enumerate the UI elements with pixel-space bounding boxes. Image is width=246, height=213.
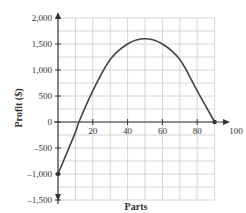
x-axis-label: Parts xyxy=(125,201,148,212)
svg-text:40: 40 xyxy=(123,126,133,136)
svg-text:100: 100 xyxy=(229,126,243,136)
svg-text:500: 500 xyxy=(39,91,53,101)
svg-text:1,500: 1,500 xyxy=(32,39,53,49)
grid xyxy=(58,18,215,200)
svg-text:1,000: 1,000 xyxy=(32,65,53,75)
svg-text:2,000: 2,000 xyxy=(32,13,53,23)
svg-text:0: 0 xyxy=(48,117,53,127)
axes xyxy=(54,12,230,204)
svg-text:60: 60 xyxy=(158,126,168,136)
svg-text:80: 80 xyxy=(193,126,203,136)
svg-text:–1,000: –1,000 xyxy=(26,169,52,179)
profit-chart: 2,0001,5001,0005000–500–1,000–1,50020406… xyxy=(0,0,246,213)
svg-text:–500: –500 xyxy=(33,143,53,153)
y-axis-label: Profit ($) xyxy=(13,89,25,128)
svg-text:–1,500: –1,500 xyxy=(26,195,52,205)
profit-curve xyxy=(58,39,215,174)
svg-text:20: 20 xyxy=(88,126,98,136)
